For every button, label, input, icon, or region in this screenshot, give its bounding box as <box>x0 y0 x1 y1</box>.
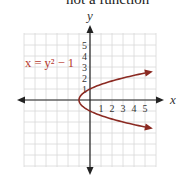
svg-text:2: 2 <box>82 73 87 84</box>
svg-text:4: 4 <box>82 51 87 62</box>
x-axis-label: x <box>169 92 176 107</box>
svg-text:3: 3 <box>82 62 87 73</box>
y-axis-down-arrow-icon <box>87 167 94 175</box>
equation-label: x = y² − 1 <box>25 56 74 70</box>
y-axis-up-arrow-icon <box>87 25 94 33</box>
y-axis-label: y <box>85 8 93 23</box>
svg-text:3: 3 <box>121 103 126 114</box>
x-axis-left-arrow-icon <box>17 97 25 104</box>
svg-text:2: 2 <box>110 103 115 114</box>
curve-arrow-upper-icon <box>144 70 153 77</box>
x-axis-right-arrow-icon <box>156 97 164 104</box>
axes <box>17 25 164 175</box>
svg-text:5: 5 <box>143 103 148 114</box>
svg-text:1: 1 <box>99 103 104 114</box>
parabola-chart: 1234512345 x y x = y² − 1 <box>0 0 188 186</box>
svg-text:5: 5 <box>82 40 87 51</box>
tick-labels: 1234512345 <box>82 40 148 115</box>
svg-text:4: 4 <box>132 103 137 114</box>
curve-arrow-lower-icon <box>144 124 153 131</box>
